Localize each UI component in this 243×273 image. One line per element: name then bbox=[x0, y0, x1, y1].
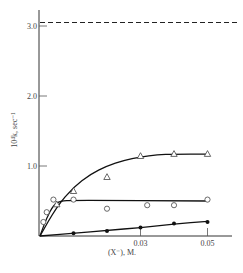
open-circle-marker bbox=[71, 197, 76, 202]
open-circle-marker bbox=[51, 197, 56, 202]
filled-circle-marker bbox=[172, 221, 176, 225]
kinetics-chart: 1.02.03.00.030.05 (X⁻), M. 10⁴k, sec⁻¹ bbox=[0, 0, 243, 273]
open-circle-marker bbox=[104, 206, 109, 211]
y-tick-label: 2.0 bbox=[27, 92, 37, 101]
data-markers bbox=[41, 151, 211, 236]
open-circle-marker bbox=[145, 203, 150, 208]
triangle-marker bbox=[137, 153, 143, 159]
filled-circle-marker bbox=[206, 220, 210, 224]
y-tick-label: 1.0 bbox=[27, 162, 37, 171]
open-circle-marker bbox=[205, 197, 210, 202]
x-tick-label: 0.03 bbox=[134, 239, 148, 248]
tick-labels: 1.02.03.00.030.05 bbox=[27, 22, 215, 248]
axes bbox=[39, 10, 232, 236]
filled-circle-marker bbox=[72, 231, 76, 235]
open-circles-curve bbox=[40, 200, 208, 236]
open-circle-marker bbox=[41, 219, 46, 224]
y-tick-label: 3.0 bbox=[27, 22, 37, 31]
fit-curves bbox=[40, 154, 208, 236]
x-axis-label: (X⁻), M. bbox=[108, 248, 136, 257]
filled-circle-marker bbox=[105, 229, 109, 233]
y-axis-label: 10⁴k, sec⁻¹ bbox=[10, 112, 19, 148]
filled-circles-curve bbox=[40, 221, 208, 236]
triangle-marker bbox=[104, 174, 110, 180]
open-circle-marker bbox=[171, 203, 176, 208]
triangle-marker bbox=[171, 151, 177, 157]
open-circle-marker bbox=[44, 210, 49, 215]
filled-circle-marker bbox=[139, 226, 143, 230]
x-tick-label: 0.05 bbox=[201, 239, 215, 248]
